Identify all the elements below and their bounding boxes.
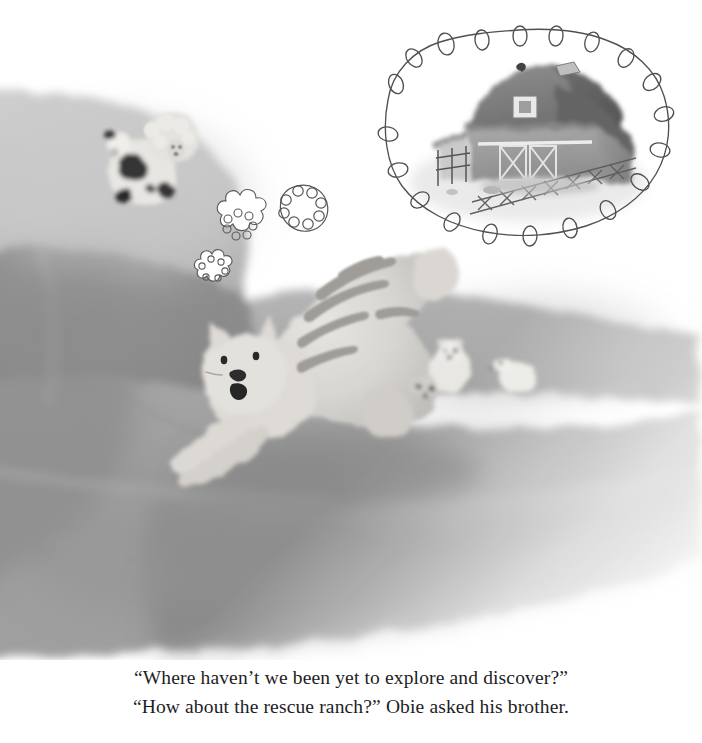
cat-eye-left [221, 356, 228, 364]
sheep-eye [171, 145, 174, 148]
cow-spot [157, 182, 175, 198]
caption-line-1: “Where haven’t we been yet to explore an… [0, 663, 702, 692]
barn-ground-object [446, 189, 458, 195]
barn-ground-shadow [480, 177, 600, 195]
illustration-canvas [0, 0, 702, 660]
sheep-head [167, 139, 185, 161]
bear-ear [437, 339, 445, 347]
puff-bubble-large [279, 185, 328, 231]
bear-nose [448, 354, 451, 357]
caption-line-2: “How about the rescue ranch?” Obie asked… [0, 692, 702, 721]
duck-head [495, 359, 511, 373]
cat-tail [414, 247, 460, 300]
barn-eave-shadow [466, 122, 598, 130]
sheep-eye [178, 145, 181, 148]
bear-eye [443, 349, 446, 352]
bear-ear [455, 339, 463, 347]
duck-eye [499, 363, 502, 366]
book-page: “Where haven’t we been yet to explore an… [0, 0, 702, 743]
illustration-area [0, 0, 702, 660]
cow-spot [117, 154, 147, 182]
cow-leg [116, 189, 132, 203]
thought-bubble [377, 25, 676, 246]
cat-eye-right [253, 352, 260, 360]
cow-muzzle [109, 148, 119, 156]
story-caption: “Where haven’t we been yet to explore an… [0, 655, 702, 743]
cow-spot [146, 185, 156, 195]
cow-ear [104, 131, 116, 141]
bear-eye [453, 349, 456, 352]
sheep-nose [174, 152, 179, 156]
barn-trim [478, 142, 592, 144]
